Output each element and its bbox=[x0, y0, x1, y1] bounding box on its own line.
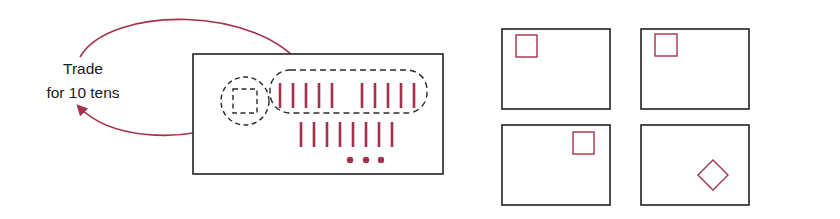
frame-1-border bbox=[502, 29, 610, 109]
diagram-canvas: Trade for 10 tens bbox=[0, 0, 840, 219]
one-dot bbox=[378, 157, 384, 163]
frame-3 bbox=[502, 125, 610, 205]
frame-4 bbox=[641, 125, 749, 205]
place-value-panel bbox=[193, 54, 443, 174]
frame-grid bbox=[502, 29, 749, 205]
frame-4-border bbox=[641, 125, 749, 205]
panel-border bbox=[193, 54, 443, 174]
frame-2-border bbox=[641, 29, 749, 109]
trade-label-line2: for 10 tens bbox=[46, 84, 119, 101]
trade-label: Trade for 10 tens bbox=[46, 60, 119, 101]
frame-2 bbox=[641, 29, 749, 109]
frame-1 bbox=[502, 29, 610, 109]
trade-label-line1: Trade bbox=[63, 60, 103, 77]
one-dot bbox=[347, 157, 353, 163]
one-dot bbox=[363, 157, 369, 163]
